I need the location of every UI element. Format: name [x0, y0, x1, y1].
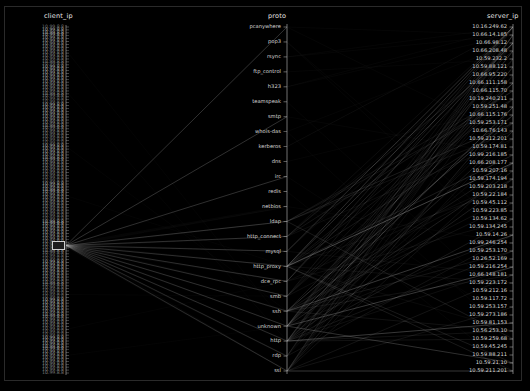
server-ip-tick-label: 10.66.14.185 [439, 32, 507, 37]
server-ip-tick-label: 10.59.81.153 [439, 320, 507, 325]
proto-tick-label: rdp [209, 353, 281, 358]
proto-tick-label: ssl [209, 368, 281, 373]
proto-tick-label: smtp [209, 114, 281, 119]
server-ip-tick-label: 10.66.115.70 [439, 88, 507, 93]
server-ip-tick-label: 10.59.223.85 [439, 208, 507, 213]
proto-tick-label: whois-das [209, 129, 281, 134]
server-ip-tick-label: 10.59.45.112 [439, 200, 507, 205]
server-ip-tick-label: 10.66.115.176 [439, 112, 507, 117]
server-ip-tick-label: 10.59.134.245 [439, 224, 507, 229]
server-ip-tick-label: 10.59.88.211 [439, 352, 507, 357]
server-ip-tick-label: 10.59.273.186 [439, 312, 507, 317]
server-ip-tick-label: 10.66.208.177 [439, 160, 507, 165]
server-ip-tick-label: 10.59.134.62 [439, 216, 507, 221]
server-ip-tick-label: 10.59.88.121 [439, 64, 507, 69]
server-ip-tick-label: 10.59.253.170 [439, 248, 507, 253]
server-ip-tick-label: 10.59.117.72 [439, 296, 507, 301]
parallel-coordinates-plot: client_ip proto server_ip 10.99.8.810.99… [0, 0, 530, 391]
axis-title-server-ip: server_ip [487, 12, 519, 20]
server-ip-tick-label: 10.59.45.245 [439, 344, 507, 349]
server-ip-tick-label: 10.66.98.12 [439, 40, 507, 45]
server-ip-tick-label: 10.59.211.201 [439, 368, 507, 373]
visualization-canvas: client_ip proto server_ip 10.99.8.810.99… [0, 0, 530, 391]
server-ip-tick-label: 10.59.232.2 [439, 56, 507, 61]
proto-tick-label: http_proxy [209, 264, 281, 269]
server-ip-tick-label: 10.26.52.169 [439, 256, 507, 261]
proto-tick-label: unknown [209, 324, 281, 329]
proto-tick-label: teamspeak [209, 99, 281, 104]
server-ip-tick-label: 10.59.21.10 [439, 360, 507, 365]
server-ip-tick-label: 10.59.216.254 [439, 264, 507, 269]
proto-tick-label: dce_rpc [209, 279, 281, 284]
proto-tick-label: ssh [209, 309, 281, 314]
server-ip-tick-label: 10.56.253.10 [439, 328, 507, 333]
proto-tick-label: pop3 [209, 39, 281, 44]
proto-tick-label: redis [209, 189, 281, 194]
server-ip-tick-label: 10.66.148.181 [439, 272, 507, 277]
proto-tick-label: dns [209, 159, 281, 164]
proto-tick-label: netbios [209, 204, 281, 209]
server-ip-tick-label: 10.66.111.158 [439, 80, 507, 85]
proto-tick-label: http_connect [209, 234, 281, 239]
server-ip-tick-label: 10.19.240.211 [439, 96, 507, 101]
server-ip-tick-label: 10.66.76.143 [439, 128, 507, 133]
proto-tick-label: irc [209, 174, 281, 179]
server-ip-tick-label: 10.59.259.68 [439, 336, 507, 341]
server-ip-tick-label: 10.59.212.16 [439, 288, 507, 293]
server-ip-tick-label: 10.66.95.220 [439, 72, 507, 77]
proto-tick-label: http [209, 338, 281, 343]
server-ip-tick-label: 10.99.246.254 [439, 240, 507, 245]
proto-tick-label: pcanywhere [209, 24, 281, 29]
server-ip-tick-label: 10.59.14.26 [439, 232, 507, 237]
server-ip-tick-label: 10.59.22.184 [439, 192, 507, 197]
axis-title-proto: proto [268, 12, 286, 20]
server-ip-tick-label: 10.59.207.16 [439, 168, 507, 173]
selected-client-node[interactable] [52, 241, 65, 250]
server-ip-tick-label: 10.99.216.185 [439, 152, 507, 157]
server-ip-tick-label: 10.59.223.172 [439, 280, 507, 285]
proto-tick-label: rsync [209, 54, 281, 59]
proto-tick-label: ldap [209, 219, 281, 224]
proto-tick-label: mysql [209, 249, 281, 254]
proto-tick-label: ftp_control [209, 69, 281, 74]
server-ip-tick-label: 10.66.208.48 [439, 48, 507, 53]
server-ip-tick-label: 10.59.203.218 [439, 184, 507, 189]
server-ip-tick-label: 10.59.251.48 [439, 104, 507, 109]
client-ip-tick-label: 10.99.8.8 [26, 371, 64, 376]
proto-tick-label: kerberos [209, 144, 281, 149]
server-ip-tick-label: 10.59.212.201 [439, 136, 507, 141]
proto-tick-label: smb [209, 294, 281, 299]
server-ip-tick-label: 10.59.174.194 [439, 176, 507, 181]
server-ip-tick-label: 10.59.253.171 [439, 120, 507, 125]
server-ip-tick-label: 10.59.174.81 [439, 144, 507, 149]
server-ip-tick-label: 10.59.253.157 [439, 304, 507, 309]
proto-tick-label: h323 [209, 84, 281, 89]
server-ip-tick-label: 10.16.249.62 [439, 24, 507, 29]
axis-title-client-ip: client_ip [44, 12, 73, 20]
